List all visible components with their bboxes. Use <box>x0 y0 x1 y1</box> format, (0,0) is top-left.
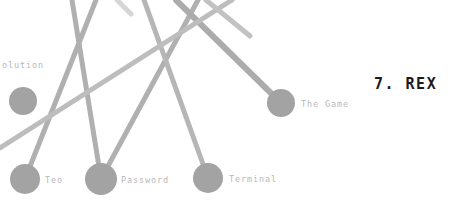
rank-title: 7. REX <box>374 77 437 92</box>
edge-faint-top-left <box>117 0 131 14</box>
graph-node-teo[interactable] <box>10 164 40 194</box>
edge-long-diagonal <box>0 0 232 148</box>
graph-node-label-teo: Teo <box>45 175 63 185</box>
graph-node-the_game[interactable] <box>267 89 295 117</box>
graph-node-terminal[interactable] <box>193 163 223 193</box>
graph-node-password[interactable] <box>85 163 117 195</box>
graph-node-label-the_game: The Game <box>301 99 349 109</box>
graph-node-label-evolution: olution <box>2 60 44 70</box>
graph-edges-layer <box>0 0 281 179</box>
edge-password-upright <box>101 0 198 179</box>
graph-node-evolution[interactable] <box>9 87 37 115</box>
edge-terminal-upleft <box>144 0 208 178</box>
graph-canvas: olutionTeoPasswordTerminalThe Game 7. RE… <box>0 0 468 205</box>
graph-node-label-password: Password <box>121 175 169 185</box>
graph-node-label-terminal: Terminal <box>229 174 277 184</box>
graph-labels-layer: olutionTeoPasswordTerminalThe Game <box>2 60 349 185</box>
network-graph: olutionTeoPasswordTerminalThe Game <box>0 0 468 205</box>
